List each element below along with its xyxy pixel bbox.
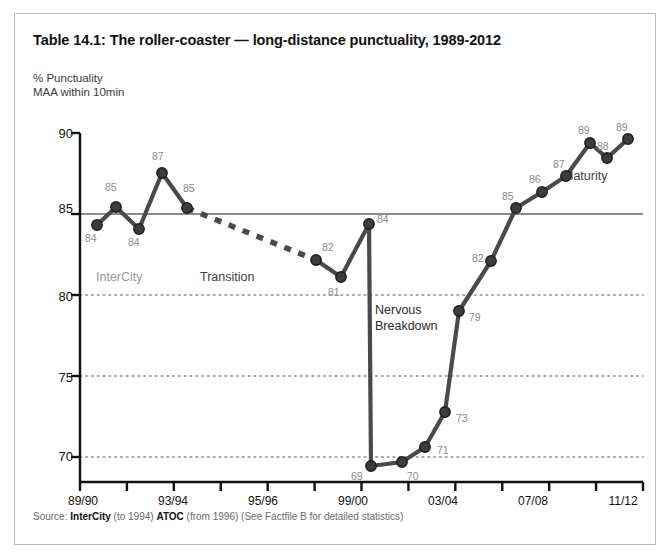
figure-panel: Table 14.1: The roller-coaster — long-di…: [14, 13, 656, 545]
data-label-85-14: 85: [502, 190, 514, 202]
data-point-86-15: [537, 187, 547, 197]
data-point-82-13: [486, 256, 496, 266]
line-chart-plot: [15, 14, 657, 546]
data-label-84-0: 84: [85, 232, 97, 244]
data-label-85-1: 85: [105, 181, 117, 193]
data-label-73-11: 73: [456, 412, 468, 424]
data-label-82-13: 82: [472, 252, 484, 264]
gridlines: [80, 295, 643, 457]
y-axis-ticks: [71, 133, 80, 457]
data-label-87-16: 87: [553, 158, 565, 170]
data-label-86-15: 86: [529, 173, 541, 185]
data-point-84-0: [92, 220, 102, 230]
source-note: Source: InterCity (to 1994) ATOC (from 1…: [33, 511, 403, 522]
data-point-85-4: [182, 203, 192, 213]
data-point-85-1: [111, 202, 121, 212]
data-label-84-7: 84: [377, 213, 389, 225]
data-point-79-12: [454, 306, 464, 316]
data-label-82-5: 82: [322, 241, 334, 253]
data-label-71-10: 71: [437, 444, 449, 456]
data-point-87-16: [561, 171, 571, 181]
data-label-89-19: 89: [616, 121, 628, 133]
data-point-82-5: [311, 255, 321, 265]
data-point-70-9: [397, 457, 407, 467]
data-point-71-10: [420, 442, 430, 452]
axes: [80, 133, 643, 482]
x-axis-ticks: [80, 482, 643, 491]
data-label-89-17: 89: [578, 124, 590, 136]
data-point-88-18: [602, 153, 612, 163]
data-label-87-3: 87: [152, 150, 164, 162]
data-label-85-4: 85: [183, 182, 195, 194]
data-label-84-2: 84: [128, 236, 140, 248]
series-line-solid: [97, 139, 628, 466]
data-label-88-18: 88: [597, 140, 609, 152]
data-point-89-17: [585, 138, 595, 148]
data-label-69-8: 69: [351, 470, 363, 482]
polyline-atoc: [316, 139, 628, 466]
data-point-69-8: [366, 461, 376, 471]
data-point-84-7: [364, 219, 374, 229]
data-point-81-6: [336, 272, 346, 282]
data-label-79-12: 79: [469, 311, 481, 323]
data-point-73-11: [440, 407, 450, 417]
data-label-70-9: 70: [407, 470, 419, 482]
series-line-dashed: [187, 208, 316, 260]
data-point-84-2: [134, 224, 144, 234]
data-point-89-19: [623, 134, 633, 144]
data-point-87-3: [157, 168, 167, 178]
data-label-81-6: 81: [328, 286, 340, 298]
polyline-transition: [187, 208, 316, 260]
data-point-85-14: [511, 203, 521, 213]
